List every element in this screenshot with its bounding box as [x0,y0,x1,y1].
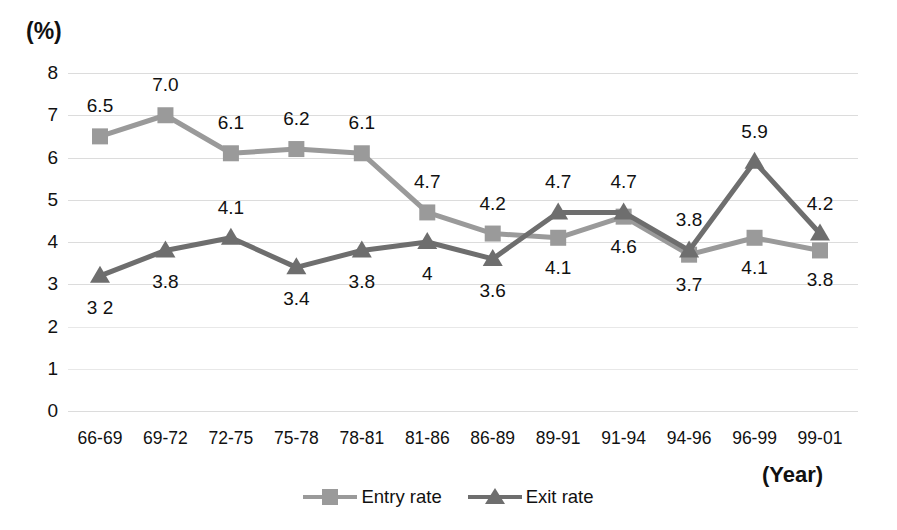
data-point-marker [223,145,239,161]
data-point-label: 3.8 [807,269,833,291]
triangle-marker [468,487,522,507]
x-axis-tick-label: 91-94 [601,428,646,449]
data-point-marker [157,107,173,123]
data-point-marker [92,128,108,144]
data-point-marker [354,145,370,161]
legend-label: Entry rate [361,486,441,508]
series-line-exit-rate [100,162,820,276]
x-axis-unit-label: (Year) [762,462,823,488]
legend-item[interactable]: Exit rate [468,486,594,508]
series-lines [68,73,858,411]
x-axis-tick-label: 75-78 [274,428,319,449]
chart-container: (%) 012345678 6.57.06.16.26.14.74.24.14.… [0,0,897,530]
data-point-label: 3.7 [676,274,702,296]
data-point-marker [485,226,501,242]
data-point-label: 5.9 [741,121,767,143]
data-point-label: 4.2 [480,193,506,215]
x-axis-tick-label: 81-86 [405,428,450,449]
x-axis-tick-label: 96-99 [732,428,777,449]
x-axis-tick-label: 86-89 [470,428,515,449]
legend-item[interactable]: Entry rate [303,486,441,508]
data-point-label: 4.1 [218,197,244,219]
data-point-marker [747,230,763,246]
data-point-marker [745,152,765,169]
x-axis-tick-label: 78-81 [339,428,384,449]
x-axis-tick-label: 99-01 [798,428,843,449]
data-point-label: 6.1 [349,112,375,134]
data-point-label: 4.2 [807,193,833,215]
y-axis-ticks: 012345678 [10,73,58,411]
data-point-label: 3 2 [87,297,113,319]
data-point-label: 3.8 [349,271,375,293]
data-point-marker [550,230,566,246]
plot-area: 6.57.06.16.26.14.74.24.14.63.74.13.83 23… [68,73,858,411]
data-point-marker [812,242,828,258]
data-point-marker [419,204,435,220]
series-line-entry-rate [100,115,820,254]
y-axis-tick-label: 3 [18,273,58,295]
data-point-label: 3.8 [676,209,702,231]
x-axis-tick-label: 66-69 [78,428,123,449]
x-axis-tick-label: 69-72 [143,428,188,449]
data-point-label: 6.1 [218,112,244,134]
chart-legend: Entry rateExit rate [0,486,897,508]
y-axis-tick-label: 1 [18,358,58,380]
data-point-label: 6.2 [283,108,309,130]
y-axis-tick-label: 7 [18,104,58,126]
data-point-label: 4 [422,263,433,285]
square-marker [303,487,357,507]
y-axis-tick-label: 2 [18,316,58,338]
x-axis-tick-label: 72-75 [209,428,254,449]
x-axis-tick-label: 89-91 [536,428,581,449]
data-point-label: 4.7 [610,171,636,193]
data-point-label: 4.1 [741,257,767,279]
y-axis-tick-label: 5 [18,189,58,211]
x-axis-tick-label: 94-96 [667,428,712,449]
data-point-label: 3.4 [283,288,309,310]
data-point-label: 4.6 [610,236,636,258]
data-point-label: 3.6 [480,280,506,302]
y-axis-tick-label: 8 [18,62,58,84]
data-point-label: 4.1 [545,257,571,279]
y-axis-tick-label: 0 [18,400,58,422]
data-point-marker [288,141,304,157]
data-point-label: 6.5 [87,95,113,117]
data-point-label: 7.0 [152,74,178,96]
y-axis-tick-label: 6 [18,147,58,169]
data-point-marker [221,228,241,245]
data-point-label: 3.8 [152,271,178,293]
data-point-label: 4.7 [545,171,571,193]
y-axis-unit-label: (%) [26,18,62,45]
gridline [68,411,858,412]
y-axis-tick-label: 4 [18,231,58,253]
legend-label: Exit rate [526,486,594,508]
data-point-label: 4.7 [414,171,440,193]
